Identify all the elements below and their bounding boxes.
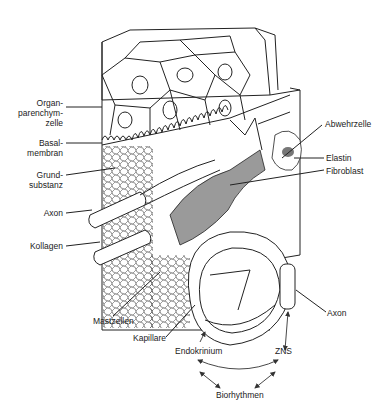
label-mastzellen: Mastzellen [93, 316, 134, 326]
tissue-diagram: Organ- parenchym- zelle Basal- membran G… [0, 0, 391, 418]
label-fibroblast: Fibroblast [326, 166, 363, 176]
label-kapillare: Kapillare [133, 333, 166, 343]
label-endokrinium: Endokrinium [175, 346, 222, 356]
label-line: substanz [0, 180, 63, 190]
label-line: zelle [0, 118, 63, 128]
label-axon-left: Axon [0, 208, 63, 218]
label-zns: ZNS [275, 346, 292, 356]
capillary [188, 232, 292, 345]
label-grundsubstanz: Grund- substanz [0, 170, 63, 190]
label-organparenchymzelle: Organ- parenchym- zelle [0, 98, 63, 128]
label-axon-right: Axon [327, 308, 346, 318]
label-line: Grund- [0, 170, 63, 180]
label-line: membran [0, 148, 63, 158]
label-basalmembran: Basal- membran [0, 138, 63, 158]
label-line: Organ- [0, 98, 63, 108]
label-biorhythmen: Biorhythmen [216, 390, 264, 400]
label-line: parenchym- [0, 108, 63, 118]
fibroblast-shape [170, 150, 265, 245]
label-kollagen: Kollagen [0, 241, 63, 251]
label-elastin: Elastin [326, 153, 352, 163]
label-line: Basal- [0, 138, 63, 148]
label-abwehrzelle: Abwehrzelle [325, 119, 371, 129]
